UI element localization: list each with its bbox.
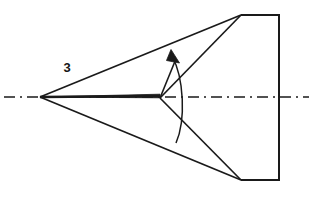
fuselage-spine [40, 96, 160, 97]
callout-label-3: 3 [63, 60, 70, 75]
rotation-arrow-leader [160, 60, 176, 98]
wing-leading-edge-upper [40, 15, 241, 97]
aircraft-planform-diagram: 3 [0, 0, 315, 197]
rotation-arrowhead [167, 50, 180, 64]
wing-trailing-edge-lower [160, 98, 241, 180]
wing-leading-edge-lower [40, 97, 241, 180]
figure-container: 3 [0, 0, 315, 197]
rotation-arc [172, 56, 182, 143]
